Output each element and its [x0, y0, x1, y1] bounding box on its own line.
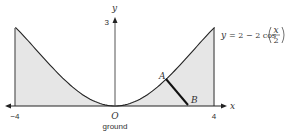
point-b-label: B [190, 95, 198, 105]
x-axis-right-arrow-icon [221, 104, 227, 109]
fraction-denominator: 2 [273, 36, 278, 45]
y-axis-arrow-icon [113, 17, 118, 23]
origin-label: O [111, 111, 119, 121]
x-tick-4: 4 [212, 112, 217, 121]
graph: y 3 x −4 4 O ground A B y = 2 − 2 cos x … [0, 0, 289, 132]
point-a-label: A [158, 71, 166, 81]
x-tick-neg4: −4 [10, 112, 20, 121]
right-paren [282, 27, 284, 43]
x-axis-label: x [230, 101, 235, 111]
fraction-numerator: x [273, 25, 278, 35]
y-tick-3: 3 [105, 18, 110, 27]
x-axis-left-arrow-icon [5, 104, 11, 109]
y-axis-label: y [111, 3, 118, 13]
equation-lhs: y [220, 30, 227, 40]
equation: y = 2 − 2 cos x 2 [220, 25, 284, 45]
ground-label: ground [103, 122, 128, 131]
